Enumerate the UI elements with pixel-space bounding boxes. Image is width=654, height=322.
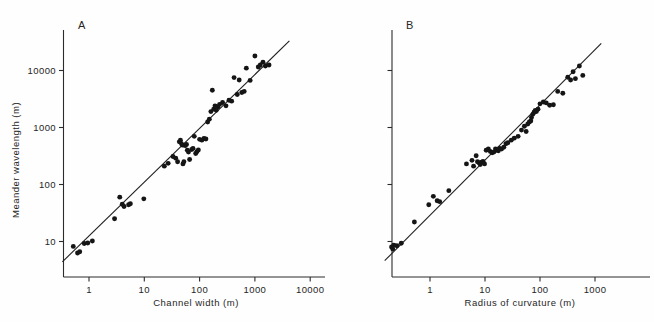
data-point [474, 153, 479, 158]
data-point [235, 92, 240, 97]
data-point [187, 157, 192, 162]
x-axis-title: Radius of curvature (m) [465, 297, 576, 308]
data-point [244, 66, 249, 71]
x-tick-label: 1000 [244, 284, 267, 295]
y-tick-label: 1000 [33, 122, 56, 133]
data-point [224, 103, 229, 108]
x-axis-title: Channel width (m) [153, 297, 239, 308]
data-point [555, 89, 560, 94]
data-point [471, 164, 476, 169]
data-point [77, 249, 82, 254]
data-point [181, 159, 186, 164]
data-point [524, 129, 529, 134]
data-point [229, 99, 234, 104]
data-point [577, 64, 582, 69]
y-axis-title: Meander wavelength (m) [10, 102, 21, 218]
data-point [112, 216, 117, 221]
data-point [85, 241, 90, 246]
data-point [431, 194, 436, 199]
data-point [191, 146, 196, 151]
data-point [580, 73, 585, 78]
data-point [571, 69, 576, 74]
data-point [551, 102, 556, 107]
x-tick-label: 100 [191, 284, 208, 295]
data-point [573, 76, 578, 81]
data-point [437, 199, 442, 204]
data-point [141, 196, 146, 201]
x-tick-label: 10 [139, 284, 150, 295]
data-point [516, 134, 521, 139]
data-point [90, 239, 95, 244]
regression-line [62, 41, 289, 262]
data-point [207, 117, 212, 122]
data-point [248, 78, 253, 83]
data-point [399, 241, 404, 246]
data-point [71, 244, 76, 249]
panel-a: 10100100010000110100100010000AChannel wi… [10, 19, 325, 308]
data-point [568, 78, 573, 83]
data-point [464, 161, 469, 166]
x-tick-label: 10 [479, 284, 490, 295]
y-tick-label: 10000 [28, 65, 56, 76]
x-tick-label: 1 [427, 284, 433, 295]
data-point [394, 243, 399, 248]
data-point [560, 91, 565, 96]
data-point [482, 161, 487, 166]
meander-wavelength-figure: 10100100010000110100100010000AChannel wi… [0, 0, 654, 322]
panel-letter-label: A [78, 19, 86, 31]
data-point [242, 89, 247, 94]
data-point [192, 134, 197, 139]
data-point [166, 161, 171, 166]
data-point [426, 202, 431, 207]
data-point [122, 204, 127, 209]
data-point [175, 159, 180, 164]
data-point [536, 107, 541, 112]
data-point [232, 75, 237, 80]
data-point [210, 88, 215, 93]
x-tick-label: 10000 [296, 284, 324, 295]
data-point [446, 188, 451, 193]
data-point [184, 142, 189, 147]
data-point [252, 54, 257, 59]
y-tick-label: 10 [45, 236, 56, 247]
panel-b: 1101001000BRadius of curvature (m) [385, 19, 650, 308]
x-tick-label: 1 [86, 284, 92, 295]
data-point [196, 147, 201, 152]
data-point [203, 136, 208, 141]
x-tick-label: 1000 [584, 284, 607, 295]
y-tick-label: 100 [39, 179, 56, 190]
x-tick-label: 100 [531, 284, 548, 295]
data-point [412, 220, 417, 225]
panel-letter-label: B [406, 19, 413, 31]
figure-container: 10100100010000110100100010000AChannel wi… [0, 0, 654, 322]
data-point [128, 201, 133, 206]
data-point [117, 195, 122, 200]
data-point [267, 63, 272, 68]
data-point [237, 78, 242, 83]
data-point [470, 158, 475, 163]
